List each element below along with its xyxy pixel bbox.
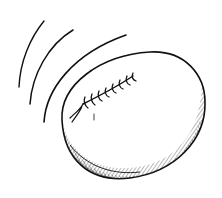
football-ball [50, 52, 212, 198]
illustration-canvas [0, 0, 222, 198]
motion-line-1 [19, 21, 44, 87]
football-illustration [0, 0, 222, 198]
